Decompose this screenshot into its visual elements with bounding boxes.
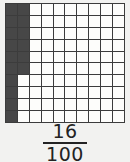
grid-cell-empty xyxy=(65,75,76,86)
grid-cell-empty xyxy=(54,28,65,39)
grid-cell-empty xyxy=(113,75,124,86)
grid-cell-shaded xyxy=(6,99,17,110)
grid-cell-empty xyxy=(30,87,41,98)
grid-cell-empty xyxy=(18,99,29,110)
grid-cell-empty xyxy=(89,99,100,110)
grid-cell-empty xyxy=(30,99,41,110)
grid-cell-empty xyxy=(42,4,53,15)
grid-cell-shaded xyxy=(18,52,29,63)
grid-cell-shaded xyxy=(6,63,17,74)
grid-cell-empty xyxy=(113,16,124,27)
grid-cell-empty xyxy=(42,16,53,27)
grid-cell-empty xyxy=(77,16,88,27)
grid-cell-shaded xyxy=(6,4,17,15)
grid-cell-empty xyxy=(113,63,124,74)
grid-cell-shaded xyxy=(6,111,17,122)
grid-cell-empty xyxy=(18,87,29,98)
fraction-numerator: 16 xyxy=(0,122,130,141)
hundredths-grid xyxy=(5,3,125,123)
grid-cell-empty xyxy=(113,87,124,98)
grid-cell-empty xyxy=(89,4,100,15)
grid-cell-shaded xyxy=(6,40,17,51)
grid-cell-empty xyxy=(30,4,41,15)
grid-cell-empty xyxy=(77,52,88,63)
grid-cell-empty xyxy=(54,52,65,63)
grid-cell-shaded xyxy=(6,87,17,98)
grid-cell-empty xyxy=(113,4,124,15)
grid-cell-shaded xyxy=(18,63,29,74)
grid-cell-empty xyxy=(30,111,41,122)
grid-cell-empty xyxy=(77,111,88,122)
grid-cell-empty xyxy=(89,40,100,51)
grid-cell-empty xyxy=(113,28,124,39)
grid-cell-empty xyxy=(54,4,65,15)
grid-cell-empty xyxy=(65,28,76,39)
grid-cell-shaded xyxy=(18,28,29,39)
grid-cell-empty xyxy=(54,40,65,51)
grid-cell-empty xyxy=(77,63,88,74)
grid-cell-empty xyxy=(77,99,88,110)
grid-cell-empty xyxy=(113,111,124,122)
grid-cell-empty xyxy=(54,99,65,110)
grid-cell-empty xyxy=(101,4,112,15)
grid-cell-empty xyxy=(65,52,76,63)
grid-cell-empty xyxy=(42,111,53,122)
grid-cell-empty xyxy=(54,63,65,74)
grid-cell-empty xyxy=(101,87,112,98)
grid-cell-empty xyxy=(77,28,88,39)
grid-cell-empty xyxy=(42,28,53,39)
grid-cell-empty xyxy=(101,28,112,39)
grid-cell-shaded xyxy=(6,28,17,39)
grid-cell-empty xyxy=(54,75,65,86)
grid-cell-empty xyxy=(89,28,100,39)
grid-cell-empty xyxy=(89,63,100,74)
grid-cell-shaded xyxy=(6,52,17,63)
grid-cell-shaded xyxy=(18,40,29,51)
grid-cell-empty xyxy=(54,16,65,27)
grid-cell-shaded xyxy=(18,4,29,15)
grid-cell-empty xyxy=(54,87,65,98)
grid-cell-empty xyxy=(101,40,112,51)
grid-cell-empty xyxy=(65,4,76,15)
grid-cell-empty xyxy=(30,52,41,63)
grid-cell-empty xyxy=(113,40,124,51)
grid-cell-empty xyxy=(42,99,53,110)
grid-cell-empty xyxy=(101,111,112,122)
grid-cell-empty xyxy=(77,4,88,15)
grid-cell-empty xyxy=(65,99,76,110)
grid-cell-empty xyxy=(18,111,29,122)
grid-cell-empty xyxy=(77,87,88,98)
grid-cell-empty xyxy=(18,75,29,86)
grid-cell-empty xyxy=(30,28,41,39)
fraction-model-figure: 16 100 xyxy=(0,0,130,162)
grid-cell-empty xyxy=(89,16,100,27)
grid-cell-empty xyxy=(101,16,112,27)
fraction-label: 16 100 xyxy=(0,122,130,162)
grid-cell-empty xyxy=(42,63,53,74)
grid-cell-empty xyxy=(77,40,88,51)
grid-cell-empty xyxy=(101,52,112,63)
grid-cell-empty xyxy=(42,40,53,51)
grid-cell-empty xyxy=(42,52,53,63)
grid-cell-empty xyxy=(89,52,100,63)
grid-cell-empty xyxy=(65,87,76,98)
grid-cell-empty xyxy=(30,40,41,51)
grid-cell-empty xyxy=(30,63,41,74)
grid-cell-empty xyxy=(30,16,41,27)
grid-cell-empty xyxy=(30,75,41,86)
grid-cell-empty xyxy=(65,16,76,27)
grid-cell-empty xyxy=(113,99,124,110)
grid-cell-empty xyxy=(42,75,53,86)
grid-cell-empty xyxy=(101,63,112,74)
grid-cell-empty xyxy=(89,75,100,86)
grid-cell-empty xyxy=(101,99,112,110)
grid-cell-empty xyxy=(101,75,112,86)
grid-cell-empty xyxy=(89,87,100,98)
grid-cell-empty xyxy=(77,75,88,86)
fraction-denominator: 100 xyxy=(0,145,130,162)
grid-cell-empty xyxy=(65,40,76,51)
grid-cell-empty xyxy=(113,52,124,63)
grid-cell-shaded xyxy=(18,16,29,27)
grid-cell-empty xyxy=(65,63,76,74)
grid-cell-shaded xyxy=(6,16,17,27)
